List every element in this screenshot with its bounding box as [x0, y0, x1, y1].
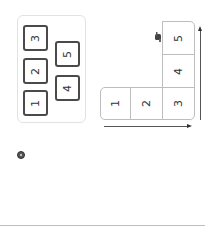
- cell-label: 5: [172, 35, 185, 42]
- tile-label: 5: [61, 51, 74, 58]
- cell-label: 2: [140, 100, 153, 107]
- tile-label: 4: [61, 85, 74, 92]
- grid-cell-5[interactable]: 5: [162, 21, 195, 55]
- cell-label: 1: [109, 100, 122, 107]
- record-icon[interactable]: [17, 151, 25, 159]
- grid-cell-2[interactable]: 2: [130, 87, 163, 120]
- tile-label: 2: [29, 68, 42, 75]
- grid-cell-1[interactable]: 1: [100, 87, 131, 120]
- horizontal-arrow: [104, 126, 188, 127]
- tile-label: 1: [29, 100, 42, 107]
- tile-label: 3: [29, 35, 42, 42]
- grid-cell-4[interactable]: 4: [162, 54, 195, 88]
- divider: [0, 225, 205, 226]
- hand-cursor-icon: [154, 32, 162, 42]
- grid-cell-3[interactable]: 3: [162, 87, 195, 120]
- source-tiles-panel: 1 2 3 4 5: [17, 15, 86, 123]
- tile-5[interactable]: 5: [55, 41, 80, 67]
- tile-4[interactable]: 4: [55, 75, 80, 101]
- tile-1[interactable]: 1: [23, 90, 48, 116]
- cell-label: 4: [172, 68, 185, 75]
- tile-3[interactable]: 3: [23, 25, 48, 51]
- vertical-arrow: [200, 30, 201, 120]
- tile-2[interactable]: 2: [23, 58, 48, 84]
- cell-label: 3: [172, 100, 185, 107]
